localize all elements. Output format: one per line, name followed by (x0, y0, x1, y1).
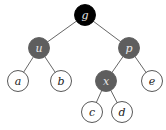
node-label-d: d (118, 106, 125, 119)
node-c: c (82, 102, 103, 123)
node-label-x: x (103, 75, 110, 88)
edges-layer (18, 15, 152, 112)
node-a: a (8, 71, 29, 92)
node-x: x (96, 71, 117, 92)
node-label-e: e (149, 75, 156, 88)
node-label-g: g (81, 9, 88, 22)
node-label-c: c (89, 106, 95, 119)
nodes-layer: gupabxecd (8, 5, 163, 123)
node-g: g (75, 5, 96, 26)
node-e: e (142, 71, 163, 92)
node-label-b: b (57, 75, 64, 88)
node-label-a: a (15, 75, 22, 88)
node-b: b (51, 71, 72, 92)
node-u: u (29, 38, 50, 59)
node-label-u: u (35, 42, 42, 55)
node-label-p: p (125, 42, 132, 55)
node-p: p (119, 38, 140, 59)
tree-diagram: gupabxecd (0, 0, 166, 130)
node-d: d (112, 102, 133, 123)
